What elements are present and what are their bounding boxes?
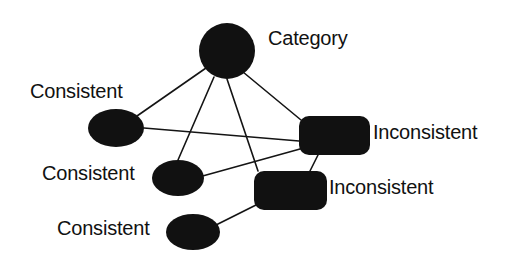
label-consistent-3: Consistent xyxy=(57,218,150,238)
label-category: Category xyxy=(268,28,348,48)
edge-category-inconsistent2 xyxy=(227,79,258,171)
label-consistent-2: Consistent xyxy=(42,163,135,183)
node-consistent-1[interactable] xyxy=(88,109,144,147)
node-category[interactable] xyxy=(199,23,255,79)
edge-category-consistent1 xyxy=(137,68,206,116)
edge-consistent1-inconsistent1 xyxy=(144,128,299,141)
edge-category-consistent2 xyxy=(178,77,214,160)
node-inconsistent-1[interactable] xyxy=(299,116,370,155)
diagram-canvas: CategoryConsistentConsistentConsistentIn… xyxy=(0,0,510,262)
label-inconsistent-2: Inconsistent xyxy=(329,177,433,197)
node-consistent-3[interactable] xyxy=(166,214,220,250)
edge-inconsistent1-inconsistent2 xyxy=(310,155,318,171)
edge-category-inconsistent1 xyxy=(243,72,301,120)
node-consistent-2[interactable] xyxy=(152,160,204,196)
label-consistent-1: Consistent xyxy=(30,81,123,101)
edge-consistent3-inconsistent2 xyxy=(216,205,256,225)
label-inconsistent-1: Inconsistent xyxy=(373,122,477,142)
node-layer xyxy=(88,23,370,250)
node-inconsistent-2[interactable] xyxy=(254,171,327,210)
